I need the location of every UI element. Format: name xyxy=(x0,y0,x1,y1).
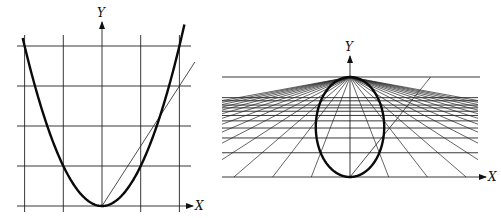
right-y-label: Y xyxy=(345,40,354,54)
right-converging-ray xyxy=(350,77,478,107)
left-parabola-panel: Y X xyxy=(17,6,204,213)
right-converging-ray xyxy=(222,77,350,107)
right-x-label: X xyxy=(487,170,497,184)
left-tangent-line xyxy=(102,62,195,206)
diagram-canvas: Y X Y X xyxy=(0,0,501,218)
right-perspective-grid xyxy=(222,77,480,177)
right-converging-ray xyxy=(311,77,350,177)
left-x-label: X xyxy=(194,199,204,213)
right-converging-ray xyxy=(273,77,350,177)
left-grid xyxy=(17,35,191,212)
right-projective-panel: Y X xyxy=(222,40,497,184)
left-parabola-curve xyxy=(23,25,185,206)
left-y-label: Y xyxy=(97,6,106,20)
right-converging-ray xyxy=(350,77,389,177)
